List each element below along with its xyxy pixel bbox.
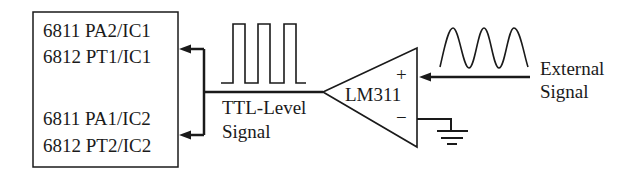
mcu-pin-label-4: 6812 PT2/IC2	[43, 135, 151, 156]
external-signal-label-line2: Signal	[540, 81, 589, 102]
arrow-ic2-icon	[179, 131, 191, 140]
lm311-interface-diagram: 6811 PA2/IC1 6812 PT1/IC1 6811 PA1/IC2 6…	[0, 0, 643, 182]
ttl-signal-label-line1: TTL-Level	[222, 97, 306, 118]
mcu-pin-label-2: 6812 PT1/IC1	[43, 46, 151, 67]
comparator-label: LM311	[345, 84, 401, 105]
mcu-box: 6811 PA2/IC1 6812 PT1/IC1 6811 PA1/IC2 6…	[33, 12, 178, 167]
mcu-pin-label-1: 6811 PA2/IC1	[43, 20, 151, 41]
square-wave-icon	[221, 24, 306, 83]
plus-input-symbol: +	[396, 64, 407, 85]
mcu-pin-label-3: 6811 PA1/IC2	[43, 108, 151, 129]
minus-input-symbol: −	[396, 107, 407, 128]
external-signal-label-line1: External	[540, 58, 604, 79]
sine-wave-icon	[440, 28, 528, 68]
ground-icon	[417, 119, 468, 144]
ttl-signal-label-line2: Signal	[222, 121, 271, 142]
lm311-comparator: LM311 + −	[323, 48, 417, 147]
arrow-plus-input-icon	[419, 73, 431, 82]
arrow-ic1-icon	[179, 45, 191, 54]
